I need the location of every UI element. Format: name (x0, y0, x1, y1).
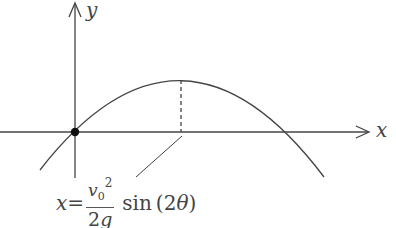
denominator-var: g (100, 208, 112, 228)
formula-denominator: 2g (88, 208, 112, 228)
numerator-superscript: 2 (105, 176, 113, 190)
x-axis-label: x (376, 118, 387, 142)
leader-line (136, 136, 182, 177)
range-formula: x = v02 2g sin (2θ) (56, 178, 196, 228)
denominator-number: 2 (88, 208, 100, 228)
formula-lhs: x (56, 191, 67, 215)
origin-dot (71, 128, 79, 136)
formula-numerator: v02 (86, 176, 114, 207)
formula-arg-var: θ (176, 191, 188, 215)
numerator-subscript: 0 (98, 191, 105, 204)
formula-arg-open: (2 (156, 191, 177, 215)
trajectory-curve (40, 81, 324, 177)
formula-arg-close: ) (188, 191, 196, 215)
formula-fraction: v02 2g (86, 176, 114, 228)
numerator-var: v (88, 180, 98, 200)
formula-function: sin (122, 191, 152, 215)
formula-equals: = (67, 191, 84, 215)
y-axis-label: y (86, 0, 97, 22)
